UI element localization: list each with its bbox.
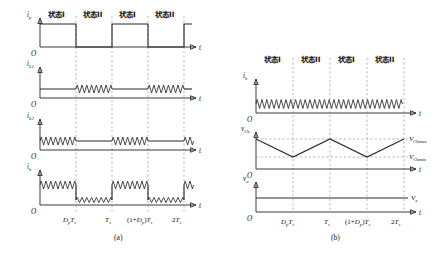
plot-va-xlabel: t xyxy=(419,209,422,217)
plot-ib-a-ripple-lo-2 xyxy=(148,197,184,202)
plot-iL2-origin: O xyxy=(31,153,37,161)
state-label-2: 状态II xyxy=(83,10,103,19)
tick-label-3: (1+Dp)Ts xyxy=(127,216,152,225)
state-label-1: 状态I xyxy=(48,10,65,19)
plot-ib-a-ripple-hi-3 xyxy=(184,181,194,189)
plot-iL2-xlabel: t xyxy=(199,147,202,155)
state-label-b-2: 状态II xyxy=(301,55,321,64)
plot-iL2-ripple-state1-b xyxy=(112,137,148,145)
panel-b-gridlines xyxy=(293,58,404,212)
plot-ib-a-ripple-hi-1 xyxy=(40,181,76,189)
plot-vCb-ylabel: vCb xyxy=(241,125,250,134)
panel-b: 状态I 状态II 状态I 状态II ib O t vCb O xyxy=(241,55,427,242)
figure-svg: 状态I 状态II 状态I 状态II ip O t xyxy=(0,0,445,254)
plot-ip-xlabel: t xyxy=(199,44,202,52)
plot-vCb: vCb O t VCbmax VCbmin xyxy=(241,125,427,180)
plot-ib-b: ib O t xyxy=(243,72,422,124)
plot-iL1-ripple-state2-a xyxy=(76,85,112,93)
tick-label-b-1: DpTs xyxy=(280,218,294,227)
tick-label-2: Ts xyxy=(105,216,111,225)
panel-a-state-labels: 状态I 状态II 状态I 状态II xyxy=(48,10,175,19)
state-label-4: 状态II xyxy=(155,10,175,19)
plot-iL1-ripple-state2-b xyxy=(148,85,184,93)
panel-b-state-labels: 状态I 状态II 状态I 状态II xyxy=(264,55,395,64)
panel-a: 状态I 状态II 状态I 状态II ip O t xyxy=(27,10,202,242)
panel-a-gridlines xyxy=(76,16,184,212)
plot-ib-a-ripple-lo-1 xyxy=(76,197,112,202)
plot-ib-a-ylabel: ib xyxy=(27,163,32,172)
tick-label-1: DpTs xyxy=(62,216,76,225)
plot-vCb-xlabel: t xyxy=(419,166,422,174)
waveform-figure: 状态I 状态II 状态I 状态II ip O t xyxy=(0,0,445,254)
plot-vCb-level-max-label: VCbmax xyxy=(409,135,427,144)
tick-label-b-3: (1+Dp)Ts xyxy=(345,218,370,227)
tick-label-b-4: 2Ts xyxy=(391,218,400,227)
plot-ip-ylabel: ip xyxy=(27,11,32,20)
plot-vCb-level-min-label: VCbmin xyxy=(409,153,426,162)
plot-ib-b-xlabel: t xyxy=(419,110,422,118)
plot-iL2: iL2 O t xyxy=(27,112,202,161)
plot-ib-a-ripple-hi-2 xyxy=(112,181,148,189)
plot-ib-b-ylabel: ib xyxy=(243,72,248,81)
tick-label-b-2: Ts xyxy=(324,218,330,227)
panel-a-caption: (a) xyxy=(114,233,123,242)
plot-iL2-ripple-state1-c xyxy=(184,137,194,145)
plot-iL1-xlabel: t xyxy=(199,95,202,103)
plot-ib-b-ripple xyxy=(256,100,402,109)
plot-va: va O t Va xyxy=(243,175,422,223)
state-label-3: 状态I xyxy=(119,10,136,19)
plot-ib-a: ib O t xyxy=(27,163,202,216)
plot-iL2-ylabel: iL2 xyxy=(27,112,35,121)
plot-ip-waveform xyxy=(40,24,192,47)
plot-ip-origin: O xyxy=(31,50,37,58)
panel-b-caption: (b) xyxy=(331,233,340,242)
plot-iL2-ripple-state1-a xyxy=(40,137,76,145)
panel-a-tick-labels: DpTs Ts (1+Dp)Ts 2Ts xyxy=(62,216,181,225)
plot-ib-a-origin: O xyxy=(31,208,37,216)
plot-iL1: iL1 O t xyxy=(27,60,202,109)
state-label-b-3: 状态I xyxy=(338,55,355,64)
state-label-b-1: 状态I xyxy=(264,55,281,64)
panel-b-tick-labels: DpTs Ts (1+Dp)Ts 2Ts xyxy=(280,218,400,227)
plot-ib-b-origin: O xyxy=(247,116,253,124)
plot-ib-a-xlabel: t xyxy=(199,202,202,210)
plot-iL1-ylabel: iL1 xyxy=(27,60,34,69)
plot-va-level-label: Va xyxy=(411,194,418,203)
state-label-b-4: 状态II xyxy=(375,55,395,64)
plot-iL1-origin: O xyxy=(31,101,37,109)
tick-label-4: 2Ts xyxy=(172,216,181,225)
plot-va-origin: O xyxy=(247,215,253,223)
